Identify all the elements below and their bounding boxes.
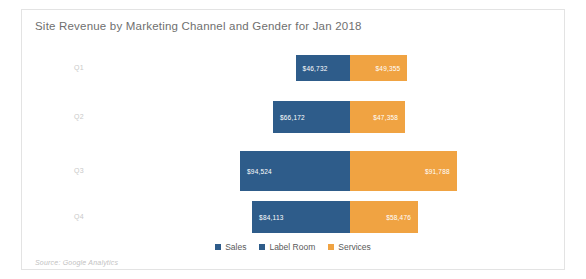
- category-label-q3: Q3: [62, 167, 96, 174]
- legend-item[interactable]: Label Room: [259, 242, 315, 252]
- legend-item[interactable]: Services: [328, 242, 371, 252]
- legend-item[interactable]: Sales: [215, 242, 246, 252]
- chart-card: Site Revenue by Marketing Channel and Ge…: [21, 9, 565, 270]
- chart-legend: SalesLabel RoomServices: [22, 242, 564, 252]
- bar-value-label: $66,172: [280, 114, 305, 121]
- category-label-q2: Q2: [62, 113, 96, 120]
- category-label-q4: Q4: [62, 213, 96, 220]
- chart-title: Site Revenue by Marketing Channel and Ge…: [35, 20, 362, 32]
- bar-row: Q3$94,524$91,788: [22, 151, 564, 191]
- bar-segment-sales[interactable]: $84,113: [252, 201, 350, 233]
- bar-segment-sales[interactable]: $66,172: [273, 101, 350, 133]
- bar-value-label: $94,524: [247, 168, 272, 175]
- bar-value-label: $84,113: [259, 214, 283, 221]
- legend-swatch-icon: [215, 244, 221, 250]
- bar-row: Q4$84,113$58,476: [22, 201, 564, 233]
- bar-segment-services[interactable]: $49,355: [350, 55, 407, 81]
- bar-segment-services[interactable]: $91,788: [350, 151, 457, 191]
- bar-value-label: $58,476: [386, 214, 411, 221]
- bar-row: Q1$46,732$49,355: [22, 55, 564, 81]
- chart-plot-area: Q1$46,732$49,355Q2$66,172$47,358Q3$94,52…: [22, 48, 564, 238]
- bar-segment-sales[interactable]: $94,524: [240, 151, 350, 191]
- bar-value-label: $46,732: [303, 65, 328, 72]
- bar-value-label: $49,355: [376, 65, 401, 72]
- source-attribution: Source: Google Analytics: [35, 259, 118, 266]
- legend-label: Services: [338, 242, 371, 252]
- bar-segment-sales[interactable]: $46,732: [296, 55, 350, 81]
- category-label-q1: Q1: [62, 64, 96, 71]
- legend-label: Label Room: [269, 242, 315, 252]
- bar-value-label: $91,788: [425, 168, 450, 175]
- bar-row: Q2$66,172$47,358: [22, 101, 564, 133]
- legend-swatch-icon: [328, 244, 334, 250]
- bar-segment-services[interactable]: $58,476: [350, 201, 418, 233]
- bar-value-label: $47,358: [373, 114, 398, 121]
- legend-swatch-icon: [259, 244, 265, 250]
- legend-label: Sales: [225, 242, 246, 252]
- bar-segment-services[interactable]: $47,358: [350, 101, 405, 133]
